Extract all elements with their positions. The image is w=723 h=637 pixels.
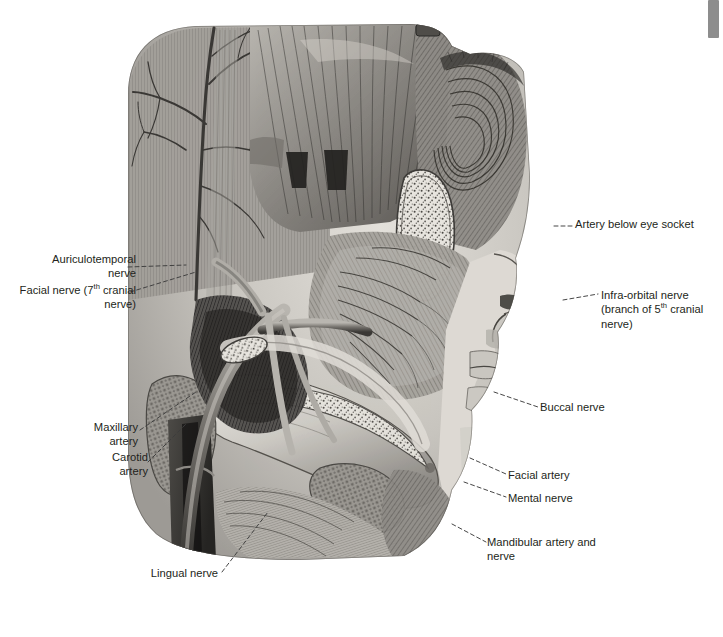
leader-infra-orbital-nerve <box>563 294 598 300</box>
label-lingual-nerve: Lingual nerve <box>100 566 218 580</box>
label-artery-below-eye-socket: Artery below eye socket <box>575 217 715 231</box>
leader-mandibular-artery-and-nerve <box>452 524 486 542</box>
leader-facial-artery <box>470 458 506 474</box>
label-infra-orbital-nerve: Infra-orbital nerve (branch of 5th crani… <box>601 288 719 331</box>
label-auriculotemporal-nerve: Auriculotemporal nerve <box>14 252 136 281</box>
label-maxillary-artery: Maxillary artery <box>46 420 138 449</box>
label-mandibular-artery-and-nerve: Mandibular artery and nerve <box>487 535 615 564</box>
leader-buccal-nerve <box>494 392 538 407</box>
label-facial-nerve-part2: cranial nerve) <box>100 284 136 310</box>
label-facial-nerve: Facial nerve (7th cranial nerve) <box>2 283 136 312</box>
label-carotid-artery: Carotid artery <box>56 450 148 479</box>
label-facial-nerve-part1: Facial nerve (7 <box>20 284 94 296</box>
label-facial-artery: Facial artery <box>508 468 618 482</box>
label-buccal-nerve: Buccal nerve <box>540 400 650 414</box>
vertical-scrollbar-thumb[interactable] <box>708 0 719 38</box>
label-mental-nerve: Mental nerve <box>508 491 618 505</box>
leader-mental-nerve <box>464 482 506 497</box>
vertical-scrollbar-track[interactable] <box>708 0 723 637</box>
page-canvas: Auriculotemporal nerve Facial nerve (7th… <box>0 0 723 637</box>
illustration-body <box>120 18 540 568</box>
